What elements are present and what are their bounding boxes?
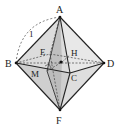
label-E: E	[40, 47, 46, 57]
label-F: F	[56, 115, 62, 126]
vertex-dot-F	[59, 109, 62, 112]
edge-length-label: 1	[29, 29, 34, 39]
label-D: D	[107, 58, 114, 69]
octahedron-diagram: A B D F E H M C 1	[0, 0, 120, 133]
octahedron-svg: A B D F E H M C 1	[0, 0, 120, 133]
vertex-dot-A	[59, 16, 62, 19]
label-H: H	[71, 48, 78, 58]
label-C: C	[71, 73, 77, 83]
vertex-dot-D	[103, 62, 106, 65]
label-B: B	[5, 58, 12, 69]
label-M: M	[31, 69, 39, 79]
center-dot	[59, 60, 62, 63]
label-A: A	[56, 4, 64, 15]
vertex-dot-B	[15, 62, 18, 65]
